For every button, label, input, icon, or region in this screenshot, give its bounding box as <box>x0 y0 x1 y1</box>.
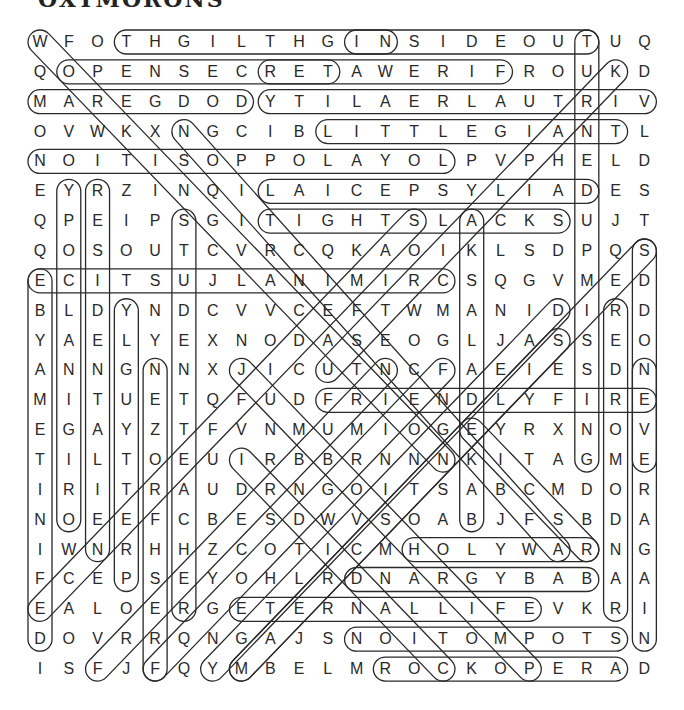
grid-letter[interactable]: C <box>229 538 253 562</box>
grid-letter[interactable]: E <box>632 388 656 412</box>
grid-letter[interactable]: G <box>57 418 81 442</box>
grid-letter[interactable]: F <box>345 299 369 323</box>
grid-letter[interactable]: D <box>460 30 484 54</box>
grid-letter[interactable]: R <box>373 657 397 681</box>
grid-letter[interactable]: N <box>57 358 81 382</box>
grid-letter[interactable]: O <box>402 418 426 442</box>
grid-letter[interactable]: L <box>57 299 81 323</box>
grid-letter[interactable]: A <box>546 179 570 203</box>
grid-letter[interactable]: I <box>316 538 340 562</box>
grid-letter[interactable]: O <box>143 448 167 472</box>
grid-letter[interactable]: U <box>201 478 225 502</box>
grid-letter[interactable]: S <box>57 657 81 681</box>
grid-letter[interactable]: L <box>488 388 512 412</box>
grid-letter[interactable]: E <box>316 299 340 323</box>
grid-letter[interactable]: L <box>460 90 484 114</box>
grid-letter[interactable]: D <box>229 90 253 114</box>
grid-letter[interactable]: W <box>517 538 541 562</box>
grid-letter[interactable]: V <box>258 299 282 323</box>
grid-letter[interactable]: I <box>258 358 282 382</box>
grid-letter[interactable]: F <box>57 30 81 54</box>
grid-letter[interactable]: Y <box>57 179 81 203</box>
grid-letter[interactable]: G <box>316 30 340 54</box>
grid-letter[interactable]: C <box>287 299 311 323</box>
grid-letter[interactable]: E <box>172 567 196 591</box>
grid-letter[interactable]: I <box>57 448 81 472</box>
grid-letter[interactable]: V <box>229 418 253 442</box>
grid-letter[interactable]: O <box>57 60 81 84</box>
grid-letter[interactable]: E <box>402 388 426 412</box>
grid-letter[interactable]: A <box>546 567 570 591</box>
grid-letter[interactable]: U <box>575 209 599 233</box>
grid-letter[interactable]: C <box>517 478 541 502</box>
grid-letter[interactable]: O <box>632 329 656 353</box>
grid-letter[interactable]: N <box>373 448 397 472</box>
grid-letter[interactable]: I <box>517 358 541 382</box>
grid-letter[interactable]: E <box>604 329 628 353</box>
grid-letter[interactable]: H <box>143 30 167 54</box>
grid-letter[interactable]: K <box>604 60 628 84</box>
grid-letter[interactable]: L <box>431 120 455 144</box>
grid-letter[interactable]: E <box>114 60 138 84</box>
grid-letter[interactable]: R <box>604 597 628 621</box>
grid-letter[interactable]: U <box>604 30 628 54</box>
grid-letter[interactable]: I <box>373 269 397 293</box>
grid-letter[interactable]: B <box>517 567 541 591</box>
grid-letter[interactable]: T <box>28 448 52 472</box>
grid-letter[interactable]: O <box>258 538 282 562</box>
grid-letter[interactable]: S <box>460 269 484 293</box>
grid-letter[interactable]: Y <box>201 657 225 681</box>
grid-letter[interactable]: Q <box>28 209 52 233</box>
grid-letter[interactable]: Q <box>172 627 196 651</box>
grid-letter[interactable]: C <box>402 358 426 382</box>
grid-letter[interactable]: S <box>632 179 656 203</box>
grid-letter[interactable]: R <box>345 388 369 412</box>
grid-letter[interactable]: E <box>86 329 110 353</box>
grid-letter[interactable]: R <box>172 597 196 621</box>
grid-letter[interactable]: F <box>316 388 340 412</box>
grid-letter[interactable]: E <box>201 60 225 84</box>
grid-letter[interactable]: I <box>316 269 340 293</box>
grid-letter[interactable]: M <box>28 388 52 412</box>
grid-letter[interactable]: E <box>460 418 484 442</box>
grid-letter[interactable]: N <box>604 538 628 562</box>
grid-letter[interactable]: A <box>86 418 110 442</box>
grid-letter[interactable]: L <box>287 567 311 591</box>
grid-letter[interactable]: E <box>287 60 311 84</box>
grid-letter[interactable]: I <box>287 209 311 233</box>
grid-letter[interactable]: P <box>86 60 110 84</box>
grid-letter[interactable]: L <box>229 269 253 293</box>
grid-letter[interactable]: N <box>143 299 167 323</box>
grid-letter[interactable]: L <box>86 597 110 621</box>
grid-letter[interactable]: T <box>546 90 570 114</box>
grid-letter[interactable]: O <box>517 30 541 54</box>
grid-letter[interactable]: R <box>604 388 628 412</box>
grid-letter[interactable]: E <box>604 179 628 203</box>
grid-letter[interactable]: S <box>258 508 282 532</box>
grid-letter[interactable]: T <box>373 120 397 144</box>
grid-letter[interactable]: E <box>402 90 426 114</box>
grid-letter[interactable]: N <box>28 508 52 532</box>
grid-letter[interactable]: N <box>575 120 599 144</box>
grid-letter[interactable]: I <box>57 388 81 412</box>
grid-letter[interactable]: B <box>575 567 599 591</box>
grid-letter[interactable]: O <box>57 149 81 173</box>
grid-letter[interactable]: D <box>632 657 656 681</box>
grid-letter[interactable]: T <box>258 597 282 621</box>
grid-letter[interactable]: T <box>575 30 599 54</box>
grid-letter[interactable]: A <box>258 269 282 293</box>
grid-letter[interactable]: A <box>57 597 81 621</box>
grid-letter[interactable]: N <box>143 60 167 84</box>
grid-letter[interactable]: A <box>460 299 484 323</box>
grid-letter[interactable]: L <box>632 120 656 144</box>
grid-letter[interactable]: I <box>402 627 426 651</box>
grid-letter[interactable]: L <box>229 30 253 54</box>
grid-letter[interactable]: R <box>114 627 138 651</box>
grid-letter[interactable]: Y <box>488 538 512 562</box>
grid-letter[interactable]: O <box>201 149 225 173</box>
grid-letter[interactable]: L <box>488 239 512 263</box>
grid-letter[interactable]: P <box>517 149 541 173</box>
grid-letter[interactable]: H <box>287 30 311 54</box>
grid-letter[interactable]: D <box>287 508 311 532</box>
grid-letter[interactable]: L <box>431 597 455 621</box>
